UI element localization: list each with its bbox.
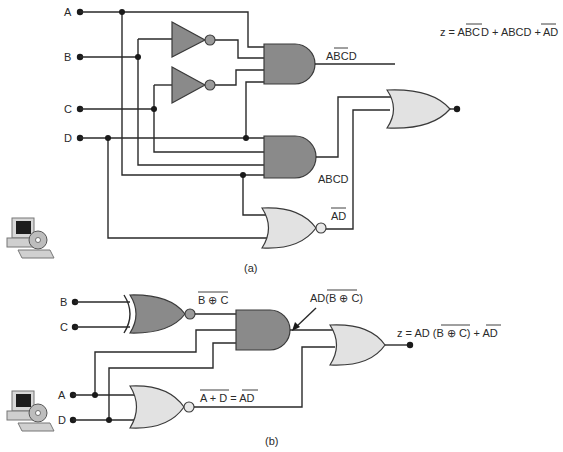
output-expression-b: z = AD (B ⊕ C) + AD [397,325,501,339]
nor-output-label: AD [331,208,346,222]
input-label-b: B [64,51,71,63]
input-label-a: A [58,389,66,401]
caption-a: (a) [244,262,257,274]
junction-a [119,9,125,15]
nor-gate-a [262,208,316,248]
junction-a-nor [240,172,246,178]
svg-text:z = AD (B ⊕ C) + AD: z = AD (B ⊕ C) + AD [397,327,498,339]
input-label-b: B [60,296,67,308]
wire-cbar-to-and1 [215,70,264,85]
junction-b [135,54,141,60]
input-label-c: C [60,321,68,333]
svg-text:A + D = AD: A + D = AD [200,392,254,404]
not-gate-c [172,67,205,103]
or-gate-output-b [330,325,385,365]
svg-text:ABCD: ABCD [326,50,357,62]
nor-gate-b [130,386,184,428]
logic-circuit-diagram: A B C D [0,0,563,452]
xnor-gate [130,295,185,333]
nor-bubble [316,223,326,233]
svg-text:B ⊕ C: B ⊕ C [198,294,228,306]
and-gate-1 [264,44,315,84]
junction-d [105,135,111,141]
output-expression-a: z = ABCD + ABCD +AD [440,24,558,38]
nor-output-label: A + D = AD [200,390,258,404]
wire-a-to-and [95,330,237,395]
and-gate-2 [264,136,316,178]
inverter-bubble [205,80,215,90]
annotation-arrow-line [295,308,316,328]
wire-c-to-and2 [154,85,264,152]
inverter-bubble [205,35,215,45]
input-label-a: A [64,6,72,18]
wire-d-to-nor [108,138,268,238]
output-terminal-z [454,106,460,112]
not-gate-b [172,22,205,57]
wire-d-to-and1 [246,82,264,138]
input-label-d: D [64,132,72,144]
figure-b: B C A D B ⊕ C AD(B ⊕ C) [58,290,501,447]
and2-output-label: ABCD [318,173,349,185]
wire-and2-to-or [316,97,392,157]
and1-output-label: ABCD [326,48,357,62]
and-output-label: AD(B ⊕ C) [310,290,363,304]
junction-c [151,106,157,112]
input-label-d: D [58,414,66,426]
caption-b: (b) [265,435,278,447]
output-terminal-z [407,342,413,348]
svg-text:AD: AD [331,210,346,222]
nor-bubble [184,402,194,412]
or-gate-output-a [387,90,450,128]
junction-a [92,392,98,398]
xnor-output-label: B ⊕ C [198,292,228,306]
svg-text:AD(B ⊕ C): AD(B ⊕ C) [310,292,363,304]
input-label-c: C [64,103,72,115]
computer-cd-icon [7,391,54,431]
computer-cd-icon [7,218,54,258]
wire-bbar-to-and1 [215,40,264,58]
figure-a: A B C D [64,6,558,274]
junction-d [106,417,112,423]
junction-d-and [243,135,249,141]
svg-text:z = ABCD + ABCD +AD: z = ABCD + ABCD +AD [440,26,558,38]
and-gate-b [236,310,290,350]
xnor-bubble [185,309,195,319]
